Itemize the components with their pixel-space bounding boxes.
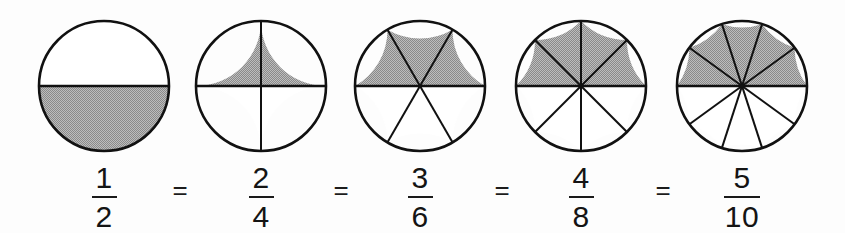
pie-model-1	[35, 17, 173, 155]
equals-sign-1: =	[160, 177, 200, 203]
pie-model-4	[512, 17, 650, 155]
pie-model-5	[673, 17, 811, 155]
fraction-bar-5	[724, 196, 760, 198]
pie-model-3	[351, 17, 489, 155]
equivalent-fractions-figure: 12243648510====	[0, 0, 845, 233]
fraction-label-5: 510	[682, 163, 802, 232]
fraction-numerator-1: 1	[44, 163, 164, 196]
equals-sign-2: =	[321, 177, 361, 203]
equals-sign-3: =	[482, 177, 522, 203]
fraction-denominator-2: 4	[201, 202, 321, 232]
equals-sign-4: =	[643, 177, 683, 203]
fraction-denominator-4: 8	[521, 202, 641, 232]
fraction-numerator-2: 2	[201, 163, 321, 196]
pie-sector-1-1	[39, 86, 169, 151]
fraction-bar-1	[92, 196, 117, 198]
fraction-label-4: 48	[521, 163, 641, 232]
pie-model-2	[192, 17, 330, 155]
fraction-numerator-3: 3	[360, 163, 480, 196]
fraction-denominator-3: 6	[360, 202, 480, 232]
fraction-denominator-5: 10	[682, 202, 802, 232]
fraction-numerator-4: 4	[521, 163, 641, 196]
pie-sector-1-2	[39, 21, 169, 86]
fraction-bar-2	[249, 196, 274, 198]
fraction-label-1: 12	[44, 163, 164, 232]
fraction-numerator-5: 5	[682, 163, 802, 196]
fraction-label-2: 24	[201, 163, 321, 232]
fraction-bar-4	[569, 196, 594, 198]
fraction-bar-3	[408, 196, 433, 198]
fraction-label-3: 36	[360, 163, 480, 232]
fraction-denominator-1: 2	[44, 202, 164, 232]
